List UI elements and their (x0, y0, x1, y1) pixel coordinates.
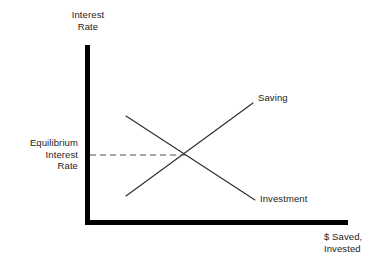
investment-curve (126, 116, 255, 200)
y-axis-label-line1: Interest (72, 9, 104, 20)
y-axis-label: InterestRate (42, 9, 134, 32)
y-axis-label-line2: Rate (78, 21, 98, 32)
x-axis (85, 220, 348, 225)
savings-investment-diagram: InterestRate EquilibriumInterestRate Sav… (0, 0, 385, 269)
x-axis-label-line2: Invested (324, 243, 361, 254)
saving-curve-label: Saving (258, 92, 288, 104)
equilibrium-label-line1: Equilibrium (30, 137, 78, 148)
equilibrium-interest-rate-label: EquilibriumInterestRate (0, 137, 78, 172)
x-axis-label: $ Saved,Invested (324, 231, 385, 254)
investment-curve-label: Investment (260, 193, 307, 205)
y-axis (85, 45, 90, 225)
equilibrium-label-line2: Interest (46, 149, 78, 160)
equilibrium-label-line3: Rate (58, 160, 78, 171)
diagram-canvas (0, 0, 385, 269)
saving-curve (126, 103, 253, 196)
x-axis-label-line1: $ Saved, (324, 231, 362, 242)
